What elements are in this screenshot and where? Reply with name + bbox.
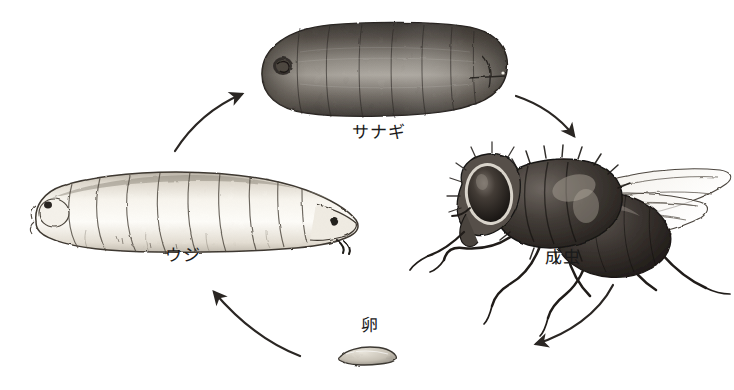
egg-illustration xyxy=(339,347,397,365)
arrow-egg-to-larva xyxy=(214,292,300,356)
life-cycle-diagram: サナギ ウジ 成虫 卵 xyxy=(0,0,734,390)
arrow-pupa-to-adult xyxy=(516,96,574,136)
stage-label-adult: 成虫 xyxy=(545,250,581,267)
adult-fly-illustration xyxy=(410,142,731,336)
stage-label-pupa: サナギ xyxy=(352,125,406,142)
stage-label-larva: ウジ xyxy=(165,248,201,265)
larva-illustration xyxy=(30,172,358,254)
fly-tarsi xyxy=(430,260,730,336)
stage-label-egg: 卵 xyxy=(361,318,379,335)
arrow-larva-to-pupa xyxy=(175,94,242,151)
pupa-illustration xyxy=(262,22,507,118)
arrow-adult-to-egg xyxy=(536,285,613,344)
